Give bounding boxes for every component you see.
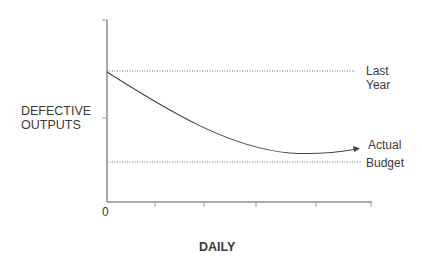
y-axis-label-line2: OUTPUTS [21, 118, 91, 132]
actual-curve [107, 72, 357, 154]
actual-label: Actual [368, 138, 401, 152]
last-year-label-line1: Last [366, 64, 390, 78]
origin-label: 0 [102, 205, 109, 219]
last-year-label-line2: Year [366, 78, 390, 92]
last-year-label: Last Year [366, 64, 390, 92]
y-axis-label-line1: DEFECTIVE [21, 104, 91, 118]
y-axis-label: DEFECTIVE OUTPUTS [21, 104, 91, 132]
budget-label: Budget [366, 156, 404, 170]
chart-canvas [0, 0, 422, 269]
arrow-head-icon [353, 146, 360, 152]
x-axis-label: DAILY [199, 240, 235, 254]
